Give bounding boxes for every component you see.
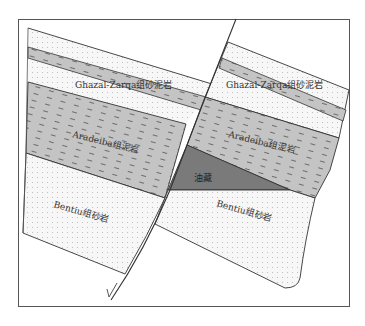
fault-sense-arrow-icon: [107, 283, 117, 297]
label-oil-reservoir: 油藏: [194, 172, 212, 183]
label-ghazal-zarqa-left: Ghazal-Zarqa组砂泥岩: [75, 79, 172, 90]
fault-trap-diagram: Ghazal-Zarqa组砂泥岩 Ghazal-Zarqa组砂泥岩 Aradei…: [0, 0, 365, 326]
label-ghazal-zarqa-right: Ghazal-Zarqa组砂泥岩: [226, 79, 323, 90]
